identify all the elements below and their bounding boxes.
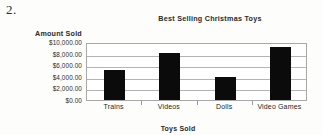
bar [270,47,291,100]
bar [215,77,236,100]
y-axis-tick-label: $8,000.00 [30,51,82,58]
x-axis-title: Toys Sold [118,125,238,132]
question-number: 2. [6,2,17,18]
x-axis-category-label: Video Games [239,103,319,110]
y-axis-tick-label: $6,000.00 [30,62,82,69]
plot-area [86,43,307,101]
y-axis-tick-label: $10,000.00 [30,39,82,46]
y-axis-title: Amount Sold [35,29,82,38]
y-axis-tick-label: $2,000.00 [30,85,82,92]
bar [159,53,180,100]
bar [104,70,125,100]
chart-title: Best Selling Christmas Toys [110,14,310,23]
y-axis-tick-label: $4,000.00 [30,74,82,81]
worksheet-page: 2. Best Selling Christmas Toys Amount So… [0,0,323,135]
